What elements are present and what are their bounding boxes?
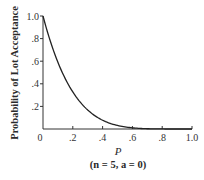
oc-curve-line [43,16,192,129]
y-tick-label: .2 [32,101,40,112]
oc-curve-chart: .2.4.6.81.0 0.2.4.6.81.0 Probability of … [0,0,204,180]
y-tick-label: .4 [32,78,40,89]
y-tick-label: .8 [32,33,40,44]
y-axis-label: Probability of Lot Acceptance [9,6,20,140]
x-axis-label: P [114,145,122,157]
axes [43,16,192,129]
x-axis-sublabel: (n = 5, a = 0) [90,159,147,171]
y-tick-label: 1.0 [27,11,40,22]
y-ticks: .2.4.6.81.0 [27,11,44,112]
x-tick-label: 0 [38,132,43,143]
y-tick-label: .6 [32,56,40,67]
x-tick-label: 1.0 [186,132,199,143]
x-tick-label: .6 [129,132,137,143]
x-tick-label: .2 [69,132,77,143]
x-tick-label: .4 [99,132,107,143]
x-tick-label: .8 [158,132,166,143]
